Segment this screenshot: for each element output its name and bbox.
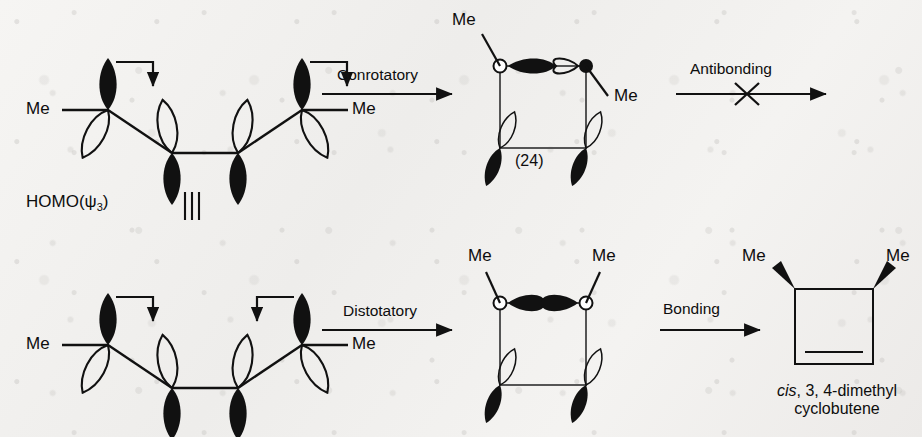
homo-label-text: HOMO(ψ (26, 192, 97, 211)
methyl-label-product-left: Me (742, 246, 766, 266)
product-caption-line2: cyclobutene (794, 400, 879, 417)
arrow-label-conrotatory: Conrotatory (337, 66, 418, 84)
equivalence-bars-icon (185, 192, 199, 220)
homo-label: HOMO(ψ3) (26, 192, 108, 214)
product-caption: cis, 3, 4-dimethyl cyclobutene (752, 382, 922, 419)
methyl-label-r1-left: Me (26, 99, 50, 119)
methyl-label-product-right: Me (886, 246, 910, 266)
diagram-stage: Me Me HOMO(ψ3) Conrotatory Me Me (24) An… (0, 0, 922, 437)
product-caption-rest: , 3, 4-dimethyl (797, 382, 897, 399)
methyl-label-24-topleft: Me (452, 10, 476, 30)
arrow-label-antibonding: Antibonding (690, 60, 772, 78)
structure-24 (480, 34, 608, 188)
diagram-vector-layer (0, 0, 922, 437)
methyl-label-r2-right: Me (352, 334, 376, 354)
reactant-conrotatory-structure (62, 58, 348, 205)
methyl-label-bonding-topleft: Me (468, 246, 492, 266)
reaction-arrow-antibonding (676, 83, 826, 105)
product-cyclobutene-structure (772, 261, 896, 364)
wedge-bond-left (772, 261, 795, 289)
product-caption-cis: cis (777, 382, 797, 399)
methyl-label-r1-right: Me (352, 99, 376, 119)
rotation-arrow-right-disrotatory (257, 297, 294, 321)
arrow-label-distotatory: Distotatory (343, 302, 417, 320)
rotation-arrow-left-disrotatory (116, 297, 153, 321)
compound-number-24: (24) (515, 152, 543, 170)
structure-bonding (480, 272, 607, 425)
methyl-label-bonding-topright: Me (592, 246, 616, 266)
homo-label-close: ) (103, 192, 109, 211)
reactant-disrotatory-structure (62, 293, 348, 437)
arrow-label-bonding: Bonding (663, 300, 720, 318)
methyl-label-r2-left: Me (26, 334, 50, 354)
methyl-label-24-topright: Me (614, 86, 638, 106)
rotation-arrow-left-conrotatory (116, 62, 153, 86)
